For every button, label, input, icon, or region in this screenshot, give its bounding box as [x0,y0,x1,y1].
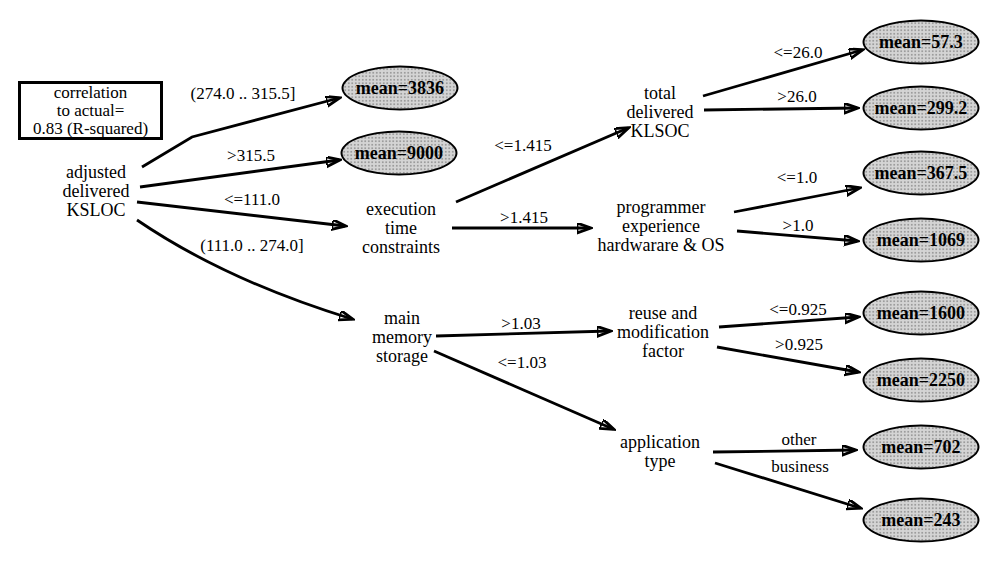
edge-label-gt-1-03: >1.03 [501,314,540,334]
edge-label-gt-315-5: >315.5 [227,146,275,166]
leaf-mean-1069: mean=1069 [863,218,980,263]
node-total-delivered-klsoc: total delivered KLSOC [627,84,694,141]
leaf-mean-57-3: mean=57.3 [863,20,980,65]
edge-arrow-programmer-to-367-5 [734,188,859,212]
node-reuse-and-modification-factor: reuse and modification factor [617,304,709,361]
correlation-note-text: correlation to actual= 0.83 (R-squared) [33,84,148,138]
leaf-mean-243: mean=243 [863,498,980,543]
edge-label-gt-1-0: >1.0 [783,216,814,236]
correlation-note-box: correlation to actual= 0.83 (R-squared) [18,81,163,140]
regression-tree-diagram: correlation to actual= 0.83 (R-squared) … [0,0,1004,565]
leaf-mean-1600: mean=1600 [863,291,980,336]
edge-label-274-315: (274.0 .. 315.5] [191,84,296,104]
edge-label-111-274: (111.0 .. 274.0] [200,236,304,256]
leaf-mean-2250: mean=2250 [863,358,980,403]
node-adjusted-delivered-ksloc: adjusted delivered KSLOC [63,163,130,220]
edge-label-le-1-415: <=1.415 [494,136,551,156]
edge-arrow-root-to-memory [137,220,352,319]
leaf-mean-3836: mean=3836 [342,66,459,111]
leaf-mean-299-2: mean=299.2 [863,86,980,131]
leaf-mean-702: mean=702 [863,425,980,470]
edge-label-le-111-0: <=111.0 [224,190,280,210]
node-main-memory-storage: main memory storage [372,309,432,366]
edge-label-gt-0-925: >0.925 [775,335,823,355]
node-programmer-experience-hardware-os: programmer experience hardwarare & OS [598,198,725,255]
edge-label-gt-1-415: >1.415 [500,208,548,228]
node-application-type: application type [620,433,700,471]
edge-arrow-apptype-to-702 [713,450,855,452]
edge-label-le-0-925: <=0.925 [769,300,826,320]
edge-label-business: business [771,457,829,477]
edge-arrow-total-to-299-2 [704,108,857,110]
edge-label-le-1-0: <=1.0 [777,168,817,188]
edge-label-other: other [782,430,817,450]
leaf-mean-367-5: mean=367.5 [863,151,980,196]
edge-label-le-26-0: <=26.0 [774,43,823,63]
leaf-mean-9000: mean=9000 [341,131,458,176]
edge-label-gt-26-0: >26.0 [777,87,816,107]
edge-label-le-1-03: <=1.03 [498,353,547,373]
node-execution-time-constraints: execution time constraints [362,200,440,257]
